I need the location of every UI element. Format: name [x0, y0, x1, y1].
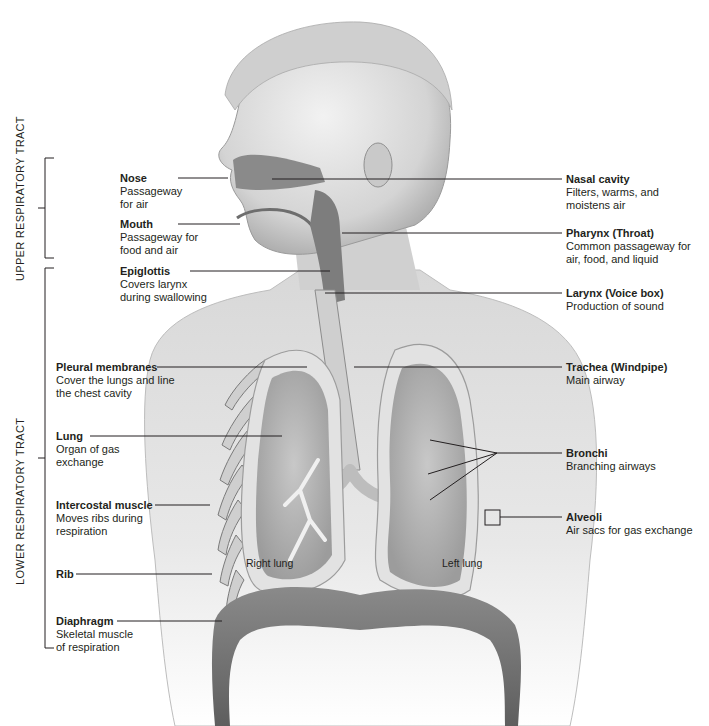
label-lung: Lung Organ of gas exchange — [56, 430, 120, 469]
label-desc: Skeletal muscle — [56, 628, 133, 641]
label-alveoli: Alveoli Air sacs for gas exchange — [566, 511, 693, 537]
lower-tract-label: LOWER RESPIRATORY TRACT — [14, 418, 26, 585]
label-desc: respiration — [56, 525, 153, 538]
label-title: Pleural membranes — [56, 361, 175, 374]
left-lung-label: Left lung — [442, 557, 482, 569]
label-larynx: Larynx (Voice box) Production of sound — [566, 287, 664, 313]
label-desc: Moves ribs during — [56, 512, 153, 525]
label-epiglottis: Epiglottis Covers larynx during swallowi… — [120, 265, 207, 304]
label-desc: Covers larynx — [120, 278, 207, 291]
label-desc: during swallowing — [120, 291, 207, 304]
label-pleural-membranes: Pleural membranes Cover the lungs and li… — [56, 361, 175, 400]
label-desc: moistens air — [566, 199, 659, 212]
label-title: Nose — [120, 172, 182, 185]
label-rib: Rib — [56, 568, 74, 581]
label-desc: Passageway for — [120, 231, 198, 244]
label-title: Diaphragm — [56, 615, 133, 628]
label-title: Trachea (Windpipe) — [566, 361, 667, 374]
ear — [364, 143, 392, 187]
label-desc: for air — [120, 198, 182, 211]
label-desc: Passageway — [120, 185, 182, 198]
label-desc: exchange — [56, 456, 120, 469]
label-title: Bronchi — [566, 447, 656, 460]
label-title: Intercostal muscle — [56, 499, 153, 512]
right-lung-label: Right lung — [246, 557, 293, 569]
region-brackets — [38, 158, 54, 648]
label-desc: Cover the lungs and line — [56, 374, 175, 387]
upper-tract-bracket — [38, 158, 54, 258]
label-intercostal-muscle: Intercostal muscle Moves ribs during res… — [56, 499, 153, 538]
label-diaphragm: Diaphragm Skeletal muscle of respiration — [56, 615, 133, 654]
label-desc: Main airway — [566, 374, 667, 387]
label-title: Nasal cavity — [566, 173, 659, 186]
label-desc: the chest cavity — [56, 387, 175, 400]
label-desc: Air sacs for gas exchange — [566, 524, 693, 537]
label-desc: Branching airways — [566, 460, 656, 473]
label-desc: air, food, and liquid — [566, 253, 691, 266]
label-desc: Production of sound — [566, 300, 664, 313]
label-bronchi: Bronchi Branching airways — [566, 447, 656, 473]
label-title: Lung — [56, 430, 120, 443]
label-title: Alveoli — [566, 511, 693, 524]
label-title: Pharynx (Throat) — [566, 227, 691, 240]
label-title: Rib — [56, 568, 74, 581]
lower-tract-bracket — [38, 268, 54, 648]
label-desc: Organ of gas — [56, 443, 120, 456]
label-title: Mouth — [120, 218, 198, 231]
label-title: Larynx (Voice box) — [566, 287, 664, 300]
upper-tract-label: UPPER RESPIRATORY TRACT — [14, 116, 26, 281]
label-mouth: Mouth Passageway for food and air — [120, 218, 198, 257]
label-desc: Filters, warms, and — [566, 186, 659, 199]
label-nasal-cavity: Nasal cavity Filters, warms, and moisten… — [566, 173, 659, 212]
label-nose: Nose Passageway for air — [120, 172, 182, 211]
label-pharynx: Pharynx (Throat) Common passageway for a… — [566, 227, 691, 266]
label-title: Epiglottis — [120, 265, 207, 278]
label-trachea: Trachea (Windpipe) Main airway — [566, 361, 667, 387]
label-desc: Common passageway for — [566, 240, 691, 253]
label-desc: food and air — [120, 244, 198, 257]
label-desc: of respiration — [56, 641, 133, 654]
